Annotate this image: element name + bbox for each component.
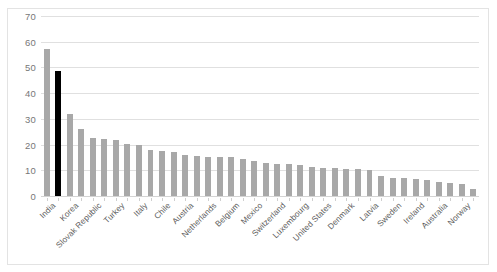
bar [263,163,269,196]
bar [113,140,119,196]
x-axis-tickmark [243,198,244,201]
x-axis-tickmark [208,198,209,201]
x-axis-label-india: India [38,201,57,220]
x-axis-labels-group: IndiaKoreaSlovak RepublicTurkeyItalyChil… [41,198,479,260]
chart-screenshot: 010203040506070 IndiaKoreaSlovak Republi… [0,0,497,272]
y-axis-tick-label: 20 [25,139,36,150]
x-axis-tickmark [162,198,163,201]
bar [101,139,107,196]
x-axis-tickmark [93,198,94,201]
bar [194,156,200,196]
x-axis-tickmark [335,198,336,201]
bar [424,180,430,196]
bar [124,144,130,196]
bar [332,168,338,196]
x-axis-label-norway: Norway [446,201,472,227]
x-axis-tickmark [81,198,82,201]
bar [136,145,142,196]
y-axis-tick-label: 70 [25,11,36,22]
bar [251,161,257,196]
x-axis-tickmark [174,198,175,201]
x-axis-tickmark [104,198,105,201]
bar [228,157,234,196]
bar [90,138,96,196]
bar [436,182,442,196]
x-axis-tickmark [358,198,359,201]
bar [320,168,326,196]
y-axis-tick-label: 0 [31,191,36,202]
bar [44,49,50,196]
x-axis-tickmark [127,198,128,201]
x-axis-tickmark [439,198,440,201]
bar [447,183,453,196]
plot-area: 010203040506070 [41,16,479,196]
bar [217,157,223,196]
x-axis-tickmark [300,198,301,201]
bars-group [41,16,479,196]
bar [205,157,211,196]
x-axis-label-chile: Chile [152,201,172,221]
bar [297,165,303,196]
bar [367,170,373,196]
x-axis-tickmark [450,198,451,201]
bar [159,151,165,196]
bar [148,150,154,196]
bar [378,176,384,196]
bar [401,178,407,196]
y-axis-tick-label: 10 [25,165,36,176]
bar [240,159,246,196]
x-axis-tickmark [151,198,152,201]
x-axis-tickmark [139,198,140,201]
gridline-0: 0 [41,196,479,197]
x-axis-tickmark [289,198,290,201]
x-axis-tickmark [47,198,48,201]
y-axis-tick-label: 50 [25,62,36,73]
x-axis-tickmark [231,198,232,201]
bar [390,178,396,196]
x-axis-tickmark [427,198,428,201]
x-axis-tickmark [323,198,324,201]
bar [286,164,292,196]
x-axis-label-turkey: Turkey [102,201,126,225]
x-axis-tickmark [312,198,313,201]
x-axis-tickmark [393,198,394,201]
x-axis-label-belgium: Belgium [214,201,242,229]
bar [309,167,315,196]
y-axis-tick-label: 30 [25,113,36,124]
bar [459,184,465,196]
x-axis-tickmark [70,198,71,201]
y-axis-tick-label: 40 [25,88,36,99]
x-axis-tickmark [197,198,198,201]
x-axis-label-italy: Italy [132,201,149,218]
x-axis-tickmark [58,198,59,201]
x-axis-tickmark [462,198,463,201]
x-axis-label-sweden: Sweden [375,201,403,229]
bar [355,169,361,197]
bar [171,152,177,196]
bar [413,179,419,196]
x-axis-tickmark [416,198,417,201]
x-axis-tickmark [473,198,474,201]
chart-frame: 010203040506070 IndiaKoreaSlovak Republi… [7,8,489,265]
x-axis-tickmark [185,198,186,201]
x-axis-tickmark [381,198,382,201]
bar [182,155,188,196]
x-axis-tickmark [116,198,117,201]
bar [343,169,349,197]
bar [470,189,476,196]
x-axis-tickmark [266,198,267,201]
bar [78,129,84,196]
x-axis-tickmark [404,198,405,201]
bar [55,71,61,196]
x-axis-tickmark [346,198,347,201]
y-axis-tick-label: 60 [25,36,36,47]
x-axis-tickmark [370,198,371,201]
x-axis-tickmark [277,198,278,201]
x-axis-tickmark [220,198,221,201]
bar [67,114,73,196]
bar [274,164,280,196]
x-axis-tickmark [254,198,255,201]
